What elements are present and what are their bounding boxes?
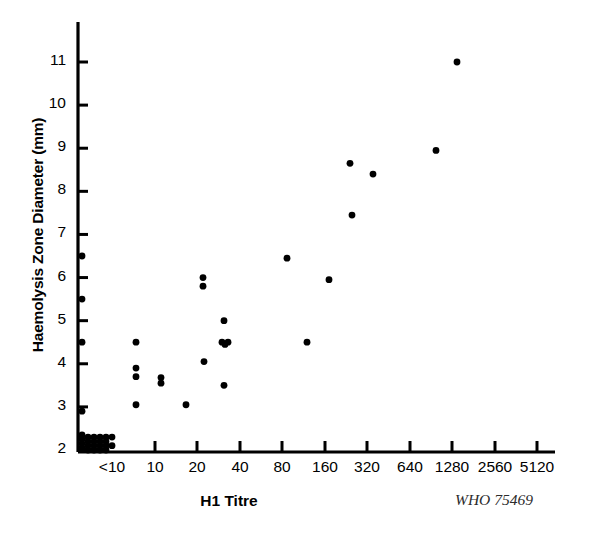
x-tick-label-640: 640	[397, 458, 423, 476]
x-tick-label-160: 160	[312, 458, 338, 476]
data-point	[133, 373, 140, 380]
y-tick-label-6: 6	[36, 267, 66, 285]
data-point	[79, 296, 86, 303]
data-point	[349, 212, 356, 219]
y-tick-label-7: 7	[36, 223, 66, 241]
data-point	[222, 341, 229, 348]
x-tick-label-2560: 2560	[478, 458, 512, 476]
data-point	[304, 339, 311, 346]
data-point	[370, 171, 377, 178]
data-point	[158, 380, 165, 387]
y-tick-label-11: 11	[36, 51, 66, 69]
data-point	[79, 444, 86, 451]
data-point	[133, 339, 140, 346]
data-point	[284, 255, 291, 262]
x-tick-label-40: 40	[231, 458, 248, 476]
data-point	[79, 339, 86, 346]
axis-ticks	[78, 62, 537, 452]
scatter-plot-figure: Haemolysis Zone Diameter (mm) 2345678910…	[0, 0, 602, 537]
data-points-group	[79, 59, 461, 454]
y-tick-label-9: 9	[36, 137, 66, 155]
data-point	[454, 59, 461, 66]
y-tick-label-4: 4	[36, 353, 66, 371]
data-point	[97, 447, 104, 454]
x-tick-label-320: 320	[354, 458, 380, 476]
data-point	[133, 365, 140, 372]
y-tick-label-5: 5	[36, 310, 66, 328]
data-point	[326, 276, 333, 283]
x-tick-label-20: 20	[188, 458, 205, 476]
data-point	[91, 447, 98, 454]
data-point	[347, 160, 354, 167]
x-tick-label-80: 80	[273, 458, 290, 476]
y-tick-label-2: 2	[36, 439, 66, 457]
axis-lines	[78, 22, 555, 452]
data-point	[200, 283, 207, 290]
y-tick-label-8: 8	[36, 180, 66, 198]
data-point	[201, 358, 208, 365]
data-point	[183, 401, 190, 408]
x-tick-label-10: 10	[146, 458, 163, 476]
data-point	[221, 382, 228, 389]
y-tick-label-10: 10	[36, 94, 66, 112]
x-tick-label-5120: 5120	[520, 458, 554, 476]
y-tick-label-3: 3	[36, 396, 66, 414]
data-point	[200, 274, 207, 281]
x-tick-label-lt10: <10	[99, 458, 125, 476]
plot-canvas	[0, 0, 602, 537]
data-point	[133, 401, 140, 408]
x-tick-label-1280: 1280	[435, 458, 469, 476]
who-credit-watermark: WHO 75469	[455, 491, 533, 509]
data-point	[79, 408, 86, 415]
data-point	[103, 447, 110, 454]
data-point	[85, 447, 92, 454]
data-point	[433, 147, 440, 154]
data-point	[221, 317, 228, 324]
data-point	[109, 434, 116, 441]
data-point	[109, 442, 116, 449]
data-point	[79, 253, 86, 260]
x-axis-title-text: H1 Titre	[200, 492, 257, 509]
